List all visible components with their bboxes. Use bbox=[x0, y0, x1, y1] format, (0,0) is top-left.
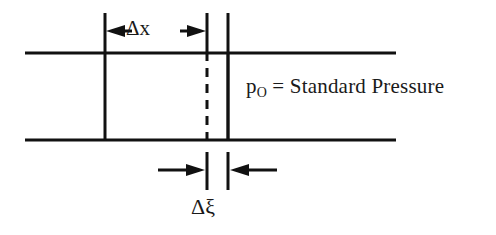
pressure-subscript: O bbox=[257, 85, 267, 100]
delta-x-left-arrow-head bbox=[106, 25, 125, 37]
delta-xi-left-arrow-head bbox=[186, 164, 205, 176]
delta-xi-right-arrow-head bbox=[230, 164, 249, 176]
standard-pressure-label: pO = Standard Pressure bbox=[246, 76, 444, 100]
delta-xi-dimension bbox=[158, 152, 277, 190]
pressure-equation-text: = Standard Pressure bbox=[267, 74, 444, 98]
diagram-canvas bbox=[0, 0, 496, 235]
delta-x-label: Δx bbox=[126, 18, 150, 39]
delta-x-dimension bbox=[105, 13, 228, 53]
delta-x-right-arrow-head bbox=[187, 25, 206, 37]
pressure-symbol: p bbox=[246, 74, 257, 98]
channel-control-volume-diagram: pO = Standard Pressure Δx Δξ bbox=[0, 0, 496, 235]
delta-xi-label: Δξ bbox=[191, 196, 215, 218]
